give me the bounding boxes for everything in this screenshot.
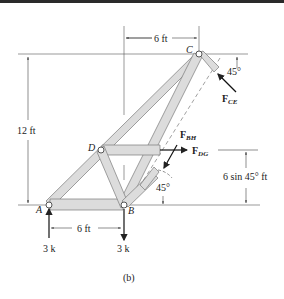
member-DG: [102, 145, 160, 155]
dim-cut-height-label: 6 sin 45° ft: [223, 171, 267, 182]
pin-C: [196, 51, 202, 57]
pin-B: [121, 202, 127, 208]
angle-bottom-arc: [158, 170, 172, 178]
pin-A: [46, 202, 52, 208]
joint-label-B: B: [128, 205, 134, 216]
dim-bottom-width-label: 6 ft: [77, 223, 91, 234]
truss-free-body-diagram: 6 ft 12 ft A B C D 45°: [0, 0, 284, 299]
reaction-A-label: 3 k: [43, 243, 56, 254]
force-FCE-label: FCE: [222, 93, 238, 106]
dim-height-label: 12 ft: [17, 125, 36, 136]
joint-label-C: C: [186, 44, 193, 55]
joint-label-A: A: [35, 204, 43, 215]
pin-D: [98, 147, 104, 153]
figure-caption: (b): [123, 272, 135, 284]
member-AB: [50, 199, 123, 210]
angle-top-label: 45°: [227, 66, 241, 77]
joint-label-D: D: [87, 142, 96, 153]
force-FBH-arrow: [164, 145, 177, 168]
force-FDG-label: FDG: [192, 145, 208, 158]
dim-top-width-label: 6 ft: [154, 33, 168, 44]
load-B-label: 3 k: [117, 243, 130, 254]
truss-members: [46, 51, 219, 210]
angle-bottom-label: 45°: [156, 182, 170, 193]
force-FBH-label: FBH: [180, 129, 197, 142]
